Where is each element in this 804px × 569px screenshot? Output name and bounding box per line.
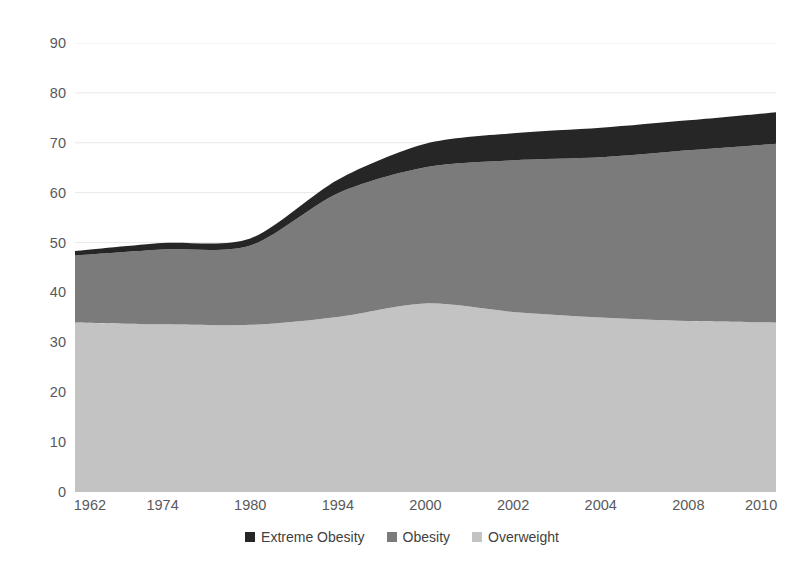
stacked-area-plot	[75, 43, 776, 492]
legend-item-label: Overweight	[488, 530, 559, 544]
x-axis-tick-label: 2002	[497, 497, 529, 513]
legend-swatch-icon	[472, 532, 482, 542]
area-series-layers	[75, 112, 776, 492]
x-axis: 196219741980199420002002200420082010	[0, 497, 804, 519]
y-axis-tick-label: 60	[50, 185, 66, 201]
x-axis-tick-label: 1974	[146, 497, 178, 513]
plot-area	[75, 43, 776, 492]
chart-title	[0, 0, 804, 10]
chart-container: 9080706050403020100 19621974198019942000…	[0, 0, 804, 569]
y-axis-tick-label: 20	[50, 384, 66, 400]
y-axis-tick-label: 50	[50, 235, 66, 251]
legend-item[interactable]: Obesity	[387, 530, 450, 544]
x-axis-tick-label: 1962	[74, 497, 106, 513]
y-axis-tick-label: 80	[50, 85, 66, 101]
area-series-obesity	[75, 144, 776, 326]
y-axis-tick-label: 70	[50, 135, 66, 151]
legend-swatch-icon	[245, 532, 255, 542]
x-axis-tick-label: 2010	[745, 497, 777, 513]
y-axis-tick-label: 90	[50, 35, 66, 51]
x-axis-tick-label: 2008	[672, 497, 704, 513]
legend-item[interactable]: Extreme Obesity	[245, 530, 364, 544]
legend-item-label: Obesity	[403, 530, 450, 544]
y-axis-tick-label: 10	[50, 434, 66, 450]
x-axis-tick-label: 1994	[322, 497, 354, 513]
y-axis: 9080706050403020100	[0, 43, 66, 492]
legend-swatch-icon	[387, 532, 397, 542]
chart-legend: Extreme ObesityObesityOverweight	[0, 530, 804, 544]
legend-item-label: Extreme Obesity	[261, 530, 364, 544]
y-axis-tick-label: 30	[50, 334, 66, 350]
x-axis-tick-label: 1980	[234, 497, 266, 513]
x-axis-tick-label: 2000	[409, 497, 441, 513]
legend-item[interactable]: Overweight	[472, 530, 559, 544]
y-axis-tick-label: 40	[50, 284, 66, 300]
x-axis-tick-label: 2004	[585, 497, 617, 513]
area-series-overweight	[75, 303, 776, 492]
